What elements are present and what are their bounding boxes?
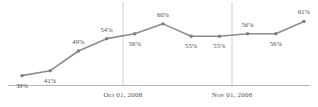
data-point-marker [302,20,305,23]
data-point-label: 61% [298,9,310,16]
data-point-marker [49,69,52,72]
data-point-label: 56% [241,21,253,28]
data-point-label: 49% [72,39,84,46]
data-point-label: 55% [185,43,197,50]
line-chart: 39%41%49%54%56%60%55%55%56%56%61% Oct 01… [0,0,318,107]
data-point-label: 41% [44,77,56,84]
data-point-label: 39% [16,82,28,89]
data-point-markers [20,20,305,78]
series-line [22,21,304,75]
data-point-marker [218,34,221,37]
data-point-marker [105,37,108,40]
data-point-marker [161,22,164,25]
data-point-marker [274,32,277,35]
x-axis-tick-label: Oct 01, 2008 [104,92,143,99]
data-point-marker [20,74,23,77]
data-point-label: 60% [157,12,169,19]
data-point-marker [246,32,249,35]
data-point-label: 55% [213,43,225,50]
data-point-label: 56% [129,40,141,47]
data-point-label: 54% [100,26,112,33]
data-point-label: 56% [270,40,282,47]
data-point-marker [190,34,193,37]
data-point-marker [77,49,80,52]
data-point-marker [133,32,136,35]
x-axis-tick-label: Nov 01, 2008 [212,92,253,99]
